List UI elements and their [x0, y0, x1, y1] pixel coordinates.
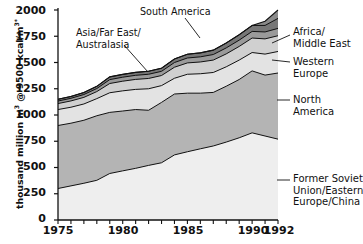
callout-south-america-line1: South America [140, 6, 211, 18]
callout-former-soviet-line2: Union/Eastern [293, 185, 363, 197]
callout-africa-middle-east-line1: Africa/ [293, 26, 351, 38]
callout-asia-far-east-line2: Australasia [76, 39, 141, 51]
callout-north-america-line2: America [293, 106, 334, 118]
callout-former-soviet-line1: Former Soviet [293, 173, 363, 185]
callout-western-europe: Western Europe [293, 56, 334, 79]
callout-africa-middle-east: Africa/ Middle East [293, 26, 351, 49]
callout-former-soviet-line3: Europe/China [293, 196, 363, 208]
callout-asia-far-east-line1: Asia/Far East/ [76, 27, 141, 39]
callout-north-america-line1: North [293, 94, 334, 106]
callout-asia-far-east: Asia/Far East/ Australasia [76, 27, 141, 50]
callout-north-america: North America [293, 94, 334, 117]
callout-africa-middle-east-line2: Middle East [293, 38, 351, 50]
callout-south-america: South America [140, 6, 211, 18]
callout-western-europe-line2: Europe [293, 68, 334, 80]
callout-former-soviet: Former Soviet Union/Eastern Europe/China [293, 173, 363, 208]
leader-south-america [185, 18, 200, 38]
callout-western-europe-line1: Western [293, 56, 334, 68]
